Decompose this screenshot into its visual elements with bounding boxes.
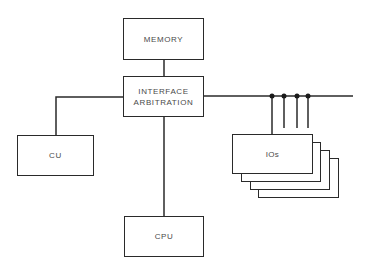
ios-label: IOs: [266, 149, 279, 160]
cu-block: CU: [17, 135, 94, 176]
interface-label-line1: INTERFACE: [138, 86, 188, 97]
junction-dot-1: [270, 94, 275, 99]
cu-label: CU: [49, 150, 62, 161]
cpu-label: CPU: [155, 231, 174, 242]
cpu-block: CPU: [124, 216, 204, 257]
junction-dot-3: [295, 94, 300, 99]
memory-label: MEMORY: [144, 34, 183, 45]
junction-dot-4: [306, 94, 311, 99]
io-block-1: IOs: [232, 134, 313, 174]
junction-dot-2: [282, 94, 287, 99]
interface-arbitration-block: INTERFACE ARBITRATION: [123, 76, 204, 117]
interface-label-line2: ARBITRATION: [134, 97, 194, 108]
memory-block: MEMORY: [123, 18, 204, 60]
interface-cu-link: [56, 97, 123, 135]
